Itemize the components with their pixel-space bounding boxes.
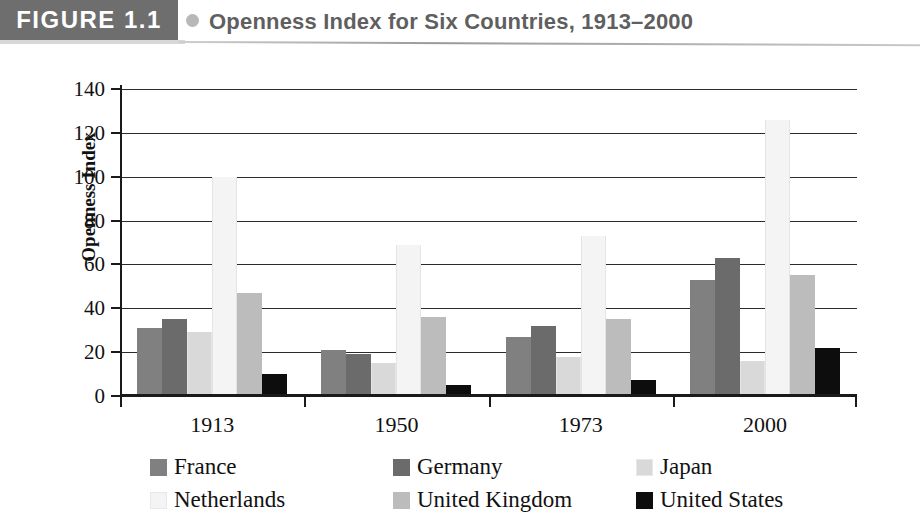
y-axis-tick-label: 80 <box>84 208 105 233</box>
legend-swatch-icon <box>393 492 410 509</box>
bar-chart: Openness Index 020406080100120140 191319… <box>0 46 920 446</box>
bar <box>790 275 815 396</box>
legend-label: Netherlands <box>174 487 285 513</box>
figure-header: FIGURE 1.1 Openness Index for Six Countr… <box>0 0 920 46</box>
legend-swatch-icon <box>150 459 167 476</box>
y-axis-tick-label: 100 <box>74 164 106 189</box>
x-axis-tick-label: 1913 <box>190 412 234 438</box>
figure-number-badge: FIGURE 1.1 <box>0 0 178 40</box>
y-axis-line <box>120 85 122 400</box>
plot-area: 020406080100120140 1913195019732000 <box>120 89 857 396</box>
legend-item[interactable]: United Kingdom <box>393 485 572 515</box>
chart-legend: FranceGermanyJapanNetherlandsUnited King… <box>150 452 890 518</box>
legend-item[interactable]: United States <box>636 485 783 515</box>
legend-item[interactable]: France <box>150 452 237 482</box>
legend-item[interactable]: Germany <box>393 452 503 482</box>
bar <box>765 120 790 396</box>
legend-row: FranceGermanyJapan <box>150 452 890 485</box>
bar <box>237 293 262 396</box>
bar <box>162 319 187 396</box>
bar <box>396 245 421 396</box>
figure-title: Openness Index for Six Countries, 1913–2… <box>209 5 693 39</box>
bar <box>506 337 531 396</box>
legend-label: Japan <box>660 454 712 480</box>
figure-number-label: FIGURE 1.1 <box>16 6 162 34</box>
bar <box>606 319 631 396</box>
legend-label: United Kingdom <box>417 487 572 513</box>
bar <box>581 236 606 396</box>
figure-page: FIGURE 1.1 Openness Index for Six Countr… <box>0 0 920 522</box>
legend-swatch-icon <box>150 492 167 509</box>
bar <box>531 326 556 396</box>
bar <box>346 354 371 396</box>
bar <box>321 350 346 396</box>
legend-label: France <box>174 454 237 480</box>
y-axis-tick-label: 20 <box>84 340 105 365</box>
bar <box>715 258 740 396</box>
gridline <box>120 133 857 134</box>
y-axis-tick-label: 60 <box>84 252 105 277</box>
bar <box>137 328 162 396</box>
bar <box>740 361 765 396</box>
legend-item[interactable]: Japan <box>636 452 712 482</box>
x-axis-tick-label: 2000 <box>743 412 787 438</box>
x-axis-tick-label: 1950 <box>374 412 418 438</box>
circle-bullet-icon <box>186 14 199 27</box>
bar <box>421 317 446 396</box>
bar <box>815 348 840 396</box>
legend-swatch-icon <box>636 459 653 476</box>
legend-swatch-icon <box>393 459 410 476</box>
gridline <box>120 89 857 90</box>
legend-row: NetherlandsUnited KingdomUnited States <box>150 485 890 518</box>
bar <box>690 280 715 396</box>
x-axis-tick <box>489 396 491 407</box>
legend-label: United States <box>660 487 783 513</box>
x-axis-tick <box>673 396 675 407</box>
bar <box>187 332 212 396</box>
bar <box>556 357 581 396</box>
y-axis-tick-label: 40 <box>84 296 105 321</box>
bar <box>212 177 237 396</box>
x-axis-tick <box>855 396 857 407</box>
y-axis-tick-label: 0 <box>95 384 106 409</box>
y-axis-tick-label: 120 <box>74 120 106 145</box>
bar <box>262 374 287 396</box>
bar <box>371 363 396 396</box>
legend-swatch-icon <box>636 492 653 509</box>
legend-item[interactable]: Netherlands <box>150 485 285 515</box>
legend-label: Germany <box>417 454 503 480</box>
header-badge-shadow <box>0 40 185 44</box>
y-axis-tick-label: 140 <box>74 77 106 102</box>
x-axis-line <box>120 394 857 397</box>
x-axis-tick-label: 1973 <box>559 412 603 438</box>
x-axis-tick <box>304 396 306 407</box>
